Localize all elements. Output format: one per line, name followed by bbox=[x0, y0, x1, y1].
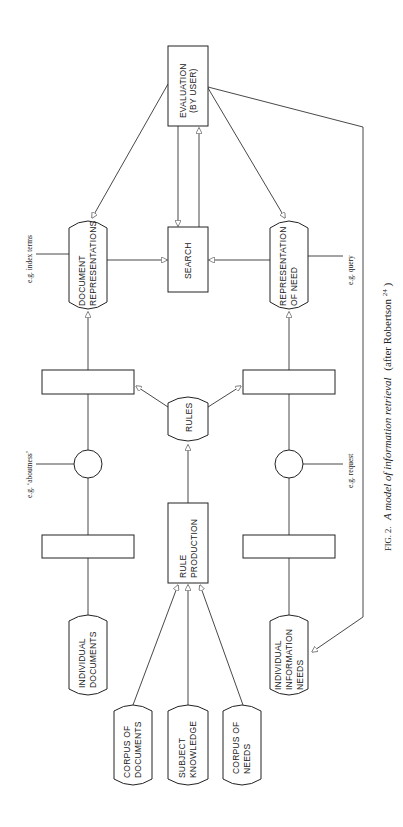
annotation-index-terms: e.g. index terms bbox=[25, 235, 34, 283]
caption-prefix: FIG. 2. bbox=[383, 527, 393, 551]
subject-knowledge-label-1: SUBJECT bbox=[177, 738, 187, 778]
rules-cylinder: RULES bbox=[168, 397, 208, 441]
subject-knowledge-cylinder: SUBJECT KNOWLEDGE bbox=[168, 705, 208, 785]
individual-information-needs-cylinder: INDIVIDUAL INFORMATION NEEDS bbox=[270, 615, 308, 695]
right-lower-rect bbox=[243, 535, 335, 558]
right-upper-rect bbox=[243, 370, 335, 394]
figure-caption: FIG. 2. A model of information retrieval… bbox=[377, 283, 394, 552]
left-upper-rect bbox=[42, 370, 134, 394]
ruleprod-label-1: RULE bbox=[178, 554, 188, 578]
repneed-label-2: OF NEED bbox=[289, 267, 299, 306]
annotation-request: e.g. request bbox=[346, 453, 355, 488]
rule-production-box: RULE PRODUCTION bbox=[168, 503, 208, 583]
indiv-docs-label-1: INDIVIDUAL bbox=[77, 638, 87, 688]
information-retrieval-diagram: EVALUATION (BY USER) SEARCH DOCUMENT REP… bbox=[0, 0, 403, 827]
request-circle bbox=[275, 450, 303, 478]
annotation-aboutness: e.g. ‘aboutness’ bbox=[25, 451, 34, 498]
corpus-of-documents-cylinder: CORPUS OF DOCUMENTS bbox=[114, 705, 152, 785]
docrep-label-1: DOCUMENT bbox=[77, 255, 87, 306]
left-lower-rect bbox=[42, 535, 134, 558]
evaluation-box: EVALUATION (BY USER) bbox=[168, 46, 208, 126]
docrep-label-2: REPRESENTATIONS bbox=[88, 221, 98, 306]
evaluation-label-2: (BY USER) bbox=[188, 68, 198, 113]
caption-superscript: 24 bbox=[381, 289, 389, 297]
corpus-docs-label-2: DOCUMENTS bbox=[133, 721, 143, 778]
caption-end: ) bbox=[381, 283, 394, 287]
corpus-needs-label-2: NEEDS bbox=[242, 744, 252, 774]
indiv-needs-label-1: INDIVIDUAL bbox=[273, 640, 283, 690]
indiv-docs-label-2: DOCUMENTS bbox=[88, 631, 98, 688]
caption-suffix: (after Robertson bbox=[381, 299, 394, 371]
search-label: SEARCH bbox=[183, 242, 193, 279]
caption-italic: A model of information retrieval bbox=[381, 378, 393, 521]
aboutness-circle bbox=[74, 450, 102, 478]
document-representations-cylinder: DOCUMENT REPRESENTATIONS bbox=[69, 221, 107, 309]
individual-documents-cylinder: INDIVIDUAL DOCUMENTS bbox=[69, 615, 107, 695]
repneed-label-1: REPRESENTATION bbox=[278, 227, 288, 306]
indiv-needs-label-3: NEEDS bbox=[295, 660, 305, 690]
corpus-of-needs-cylinder: CORPUS OF NEEDS bbox=[223, 705, 261, 785]
rules-label: RULES bbox=[184, 403, 194, 432]
corpus-docs-label-1: CORPUS OF bbox=[122, 726, 132, 778]
annotation-query: e.g. query bbox=[346, 255, 355, 285]
corpus-needs-label-1: CORPUS OF bbox=[231, 722, 241, 774]
search-box: SEARCH bbox=[168, 227, 208, 292]
evaluation-label-1: EVALUATION bbox=[178, 63, 188, 118]
subject-knowledge-label-2: KNOWLEDGE bbox=[188, 721, 198, 778]
ruleprod-label-2: PRODUCTION bbox=[189, 519, 199, 578]
representation-of-need-cylinder: REPRESENTATION OF NEED bbox=[270, 221, 308, 309]
indiv-needs-label-2: INFORMATION bbox=[284, 629, 294, 690]
